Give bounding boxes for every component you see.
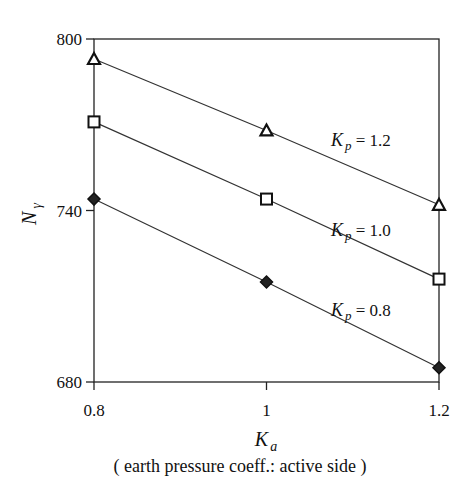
series-label: Kp = 1.0: [330, 220, 391, 243]
x-axis-title: Ka: [254, 428, 277, 454]
series-label: Kp = 1.2: [330, 130, 391, 153]
x-axis-caption: ( earth pressure coeff.: active side ): [113, 456, 366, 477]
x-axis: 0.811.2: [83, 382, 449, 420]
y-tick-label: 680: [57, 373, 83, 392]
plot-frame: [94, 39, 439, 382]
square-marker-icon: [434, 274, 445, 285]
y-axis: 680740800: [57, 30, 95, 392]
y-tick-label: 800: [57, 30, 83, 49]
chart: 680740800 0.811.2 Kp = 1.2Kp = 1.0Kp = 0…: [0, 0, 466, 486]
triangle-marker-icon: [433, 199, 445, 210]
plot-border: [94, 39, 439, 382]
triangle-marker-icon: [261, 124, 273, 135]
y-axis-title: Nγ: [18, 203, 44, 226]
series-markers: [88, 53, 445, 374]
diamond-marker-icon: [88, 193, 100, 205]
square-marker-icon: [261, 194, 272, 205]
series-label: Kp = 0.8: [330, 300, 391, 323]
triangle-marker-icon: [88, 53, 100, 64]
diamond-marker-icon: [261, 276, 273, 288]
series-labels: Kp = 1.2Kp = 1.0Kp = 0.8: [330, 130, 391, 323]
series-lines: [94, 59, 439, 368]
x-tick-label: 1: [262, 401, 271, 420]
diamond-marker-icon: [433, 362, 445, 374]
y-tick-label: 740: [57, 202, 83, 221]
square-marker-icon: [89, 116, 100, 127]
x-tick-label: 0.8: [83, 401, 104, 420]
x-tick-label: 1.2: [428, 401, 449, 420]
